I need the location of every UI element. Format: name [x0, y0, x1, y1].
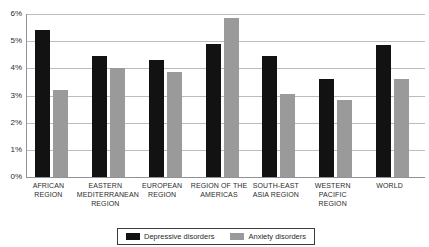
legend-swatch-icon: [230, 233, 244, 240]
y-axis-tick-label: 1%: [0, 146, 22, 154]
bar-anxiety: [53, 90, 68, 177]
x-axis-tick-label: WORLD: [361, 181, 418, 190]
bar-anxiety: [280, 94, 295, 177]
bar-chart-figure: 6%5%4%3%2%1%0% AFRICAN REGIONEASTERN MED…: [0, 0, 429, 247]
y-axis-tick-label: 0%: [0, 173, 22, 181]
bar-group: [311, 14, 368, 177]
y-axis-tick-label: 6%: [0, 10, 22, 18]
x-axis-tick-label: EASTERN MEDITERRANEAN REGION: [77, 181, 134, 208]
bar-depressive: [376, 45, 391, 177]
y-axis-tick-label: 4%: [0, 64, 22, 72]
bar-anxiety: [394, 79, 409, 177]
bar-group: [27, 14, 84, 177]
bar-anxiety: [224, 18, 239, 177]
y-axis-tick-label: 5%: [0, 37, 22, 45]
x-axis-tick-label: REGION OF THE AMERICAS: [191, 181, 248, 199]
bars-layer: [27, 14, 425, 177]
bar-anxiety: [337, 100, 352, 177]
legend-swatch-icon: [126, 233, 140, 240]
bar-depressive: [149, 60, 164, 177]
bar-depressive: [262, 56, 277, 177]
x-axis-tick-label: AFRICAN REGION: [20, 181, 77, 199]
bar-depressive: [206, 44, 221, 177]
legend-label: Anxiety disorders: [248, 233, 306, 241]
legend-entry: Depressive disorders: [126, 233, 214, 241]
bar-group: [368, 14, 425, 177]
bar-depressive: [35, 30, 50, 177]
legend-label: Depressive disorders: [144, 233, 214, 241]
bar-depressive: [319, 79, 334, 177]
bar-anxiety: [110, 68, 125, 177]
x-axis-tick-label: EUROPEAN REGION: [134, 181, 191, 199]
bar-group: [84, 14, 141, 177]
bar-group: [198, 14, 255, 177]
x-axis-tick-labels: AFRICAN REGIONEASTERN MEDITERRANEAN REGI…: [20, 181, 429, 221]
bar-group: [254, 14, 311, 177]
bar-depressive: [92, 56, 107, 177]
y-axis-tick-label: 3%: [0, 92, 22, 100]
bar-group: [141, 14, 198, 177]
bar-anxiety: [167, 72, 182, 177]
chart-legend: Depressive disordersAnxiety disorders: [117, 228, 315, 245]
legend-entry: Anxiety disorders: [230, 233, 306, 241]
y-axis-tick-label: 2%: [0, 119, 22, 127]
gridline: [26, 177, 425, 178]
x-axis-tick-label: SOUTH-EAST ASIA REGION: [247, 181, 304, 199]
x-axis-tick-label: WESTERN PACIFIC REGION: [304, 181, 361, 208]
